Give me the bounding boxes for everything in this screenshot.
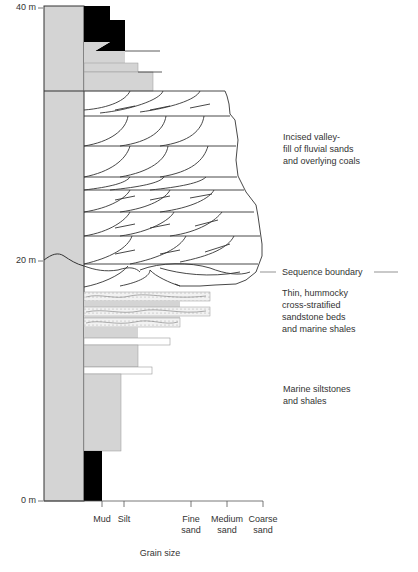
axis-title-grain-size: Grain size <box>130 548 190 559</box>
depth-label-40m: 40 m <box>2 2 36 12</box>
hummocky-beds <box>84 292 210 327</box>
tick-label-medium-sand: Medium sand <box>207 514 247 536</box>
tick-label-coarse-sand: Coarse sand <box>245 514 281 536</box>
stratigraphic-column <box>0 0 418 572</box>
depth-label-0m: 0 m <box>2 495 36 505</box>
tick-label-fine-sand: Fine sand <box>177 514 205 536</box>
tick-label-silt: Silt <box>112 514 136 525</box>
annotation-hummocky: Thin, hummocky cross-stratified sandston… <box>282 287 356 335</box>
valley-fill <box>84 91 262 287</box>
grain-size-axis <box>44 501 263 507</box>
annotation-incised-valley: Incised valley- fill of fluvial sands an… <box>283 131 360 167</box>
marine-beds <box>84 327 170 501</box>
annotation-marine-siltstones: Marine siltstones and shales <box>283 383 351 407</box>
annotation-sequence-boundary: Sequence boundary <box>282 266 363 278</box>
reference-column <box>44 6 84 501</box>
depth-label-20m: 20 m <box>2 255 36 265</box>
